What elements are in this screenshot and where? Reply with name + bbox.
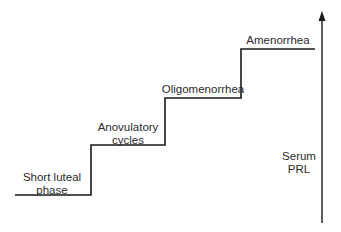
axis-arrowhead-icon: [319, 11, 326, 21]
step-label-amenorrhea: Amenorrhea: [246, 34, 309, 47]
label-line: cycles: [98, 134, 159, 147]
step-label-short-luteal-phase: Short luteal phase: [23, 171, 81, 197]
step-label-oligomenorrhea: Oligomenorrhea: [162, 83, 244, 96]
label-line: Short luteal: [23, 171, 81, 184]
step-label-anovulatory-cycles: Anovulatory cycles: [98, 121, 159, 147]
label-line: Oligomenorrhea: [162, 83, 244, 96]
label-line: Amenorrhea: [246, 34, 309, 47]
label-line: phase: [23, 184, 81, 197]
label-line: Serum: [282, 150, 316, 163]
axis-label-serum-prl: Serum PRL: [282, 150, 316, 176]
label-line: PRL: [282, 163, 316, 176]
label-line: Anovulatory: [98, 121, 159, 134]
